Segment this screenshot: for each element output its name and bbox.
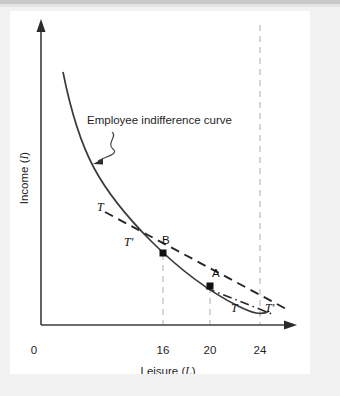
x-tick-label-24: 24 <box>254 344 267 356</box>
y-axis-title-prefix: Income ( <box>18 159 30 204</box>
x-axis-title-var: L <box>184 365 191 374</box>
callout-arrow-icon <box>93 159 103 165</box>
indifference-curve-figure: Employee indifference curve B A T T' T T… <box>10 11 310 374</box>
tangent-label-lower-T: T <box>231 301 239 315</box>
y-axis-title-suffix: ) <box>18 152 30 156</box>
x-axis-title-suffix: ) <box>192 365 196 374</box>
data-point-B <box>160 250 167 257</box>
tangent-label-upper-T-prime: T' <box>124 235 134 249</box>
point-label-B: B <box>162 234 170 246</box>
employee-indifference-curve <box>63 72 269 313</box>
tangent-line-T-at-A <box>206 288 272 314</box>
callout-squiggle <box>98 132 115 161</box>
data-point-A <box>207 283 214 290</box>
x-axis-title: Leisure (L) <box>141 365 196 374</box>
x-tick-label-16: 16 <box>157 344 170 356</box>
page-background: Employee indifference curve B A T T' T T… <box>0 0 340 396</box>
y-axis-arrow-icon <box>37 19 46 32</box>
point-label-A: A <box>212 267 220 279</box>
page-top-band-light <box>0 4 340 7</box>
chart-svg: Employee indifference curve B A T T' T T… <box>10 11 310 374</box>
figure-card: Employee indifference curve B A T T' T T… <box>10 11 310 374</box>
axis-origin-label: 0 <box>31 344 37 356</box>
x-axis-title-prefix: Leisure ( <box>141 365 186 374</box>
x-tick-label-20: 20 <box>204 344 217 356</box>
y-axis-title: Income (I) <box>18 152 30 205</box>
tangent-label-upper-T: T <box>97 200 105 214</box>
x-axis-arrow-icon <box>284 321 297 330</box>
tangent-line-T-Tprime <box>105 212 290 311</box>
curve-annotation-label: Employee indifference curve <box>87 114 232 126</box>
tangent-label-lower-T-prime: T' <box>265 301 275 315</box>
